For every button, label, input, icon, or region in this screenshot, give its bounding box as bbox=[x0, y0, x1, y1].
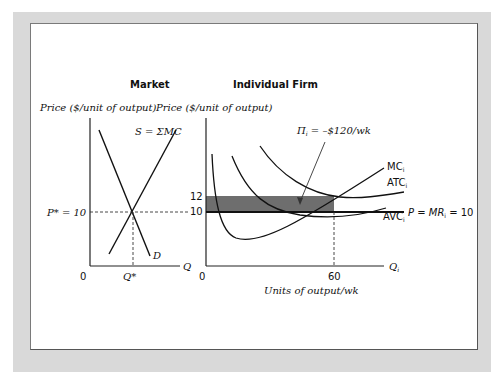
tick-12: 12 bbox=[190, 191, 203, 202]
firm-origin: 0 bbox=[199, 271, 205, 282]
avc-label: AVCi bbox=[383, 211, 405, 223]
mc-label: MCi bbox=[387, 161, 405, 173]
market-q-label: Q bbox=[183, 261, 191, 272]
atc-label: ATCi bbox=[387, 177, 408, 189]
profit-label: Πi = –$120/wk bbox=[296, 125, 371, 137]
firm-ylabel: Price ($/unit of output) bbox=[155, 102, 273, 113]
atc-curve bbox=[260, 146, 404, 198]
qstar-label: Q* bbox=[123, 271, 136, 282]
firm-chart bbox=[206, 118, 404, 266]
supply-curve bbox=[109, 130, 176, 254]
demand-label: D bbox=[152, 250, 161, 261]
pstar-label: P* = 10 bbox=[46, 207, 87, 218]
market-title: Market bbox=[130, 79, 170, 90]
economics-figure: Market Individual Firm Price ($/unit of … bbox=[0, 0, 491, 372]
market-origin: 0 bbox=[80, 271, 86, 282]
tick-60: 60 bbox=[328, 271, 341, 282]
firm-q-label: Qi bbox=[389, 261, 399, 273]
loss-area bbox=[206, 196, 334, 212]
market-chart bbox=[90, 118, 188, 266]
market-ylabel: Price ($/unit of output) bbox=[39, 102, 157, 113]
firm-title: Individual Firm bbox=[233, 79, 318, 90]
supply-label: S = ΣMC bbox=[135, 126, 182, 137]
tick-10: 10 bbox=[190, 206, 203, 217]
price-line-label: P = MRi = 10 bbox=[408, 207, 473, 219]
firm-xlabel: Units of output/wk bbox=[264, 285, 359, 296]
